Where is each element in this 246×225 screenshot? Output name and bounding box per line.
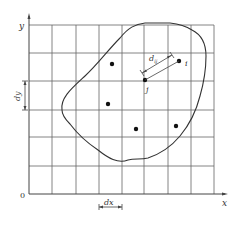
y-axis-arrow-icon [28,13,31,19]
grid [29,25,214,194]
point-i-label: i [185,59,188,68]
y-axis-label: y [18,21,25,31]
dy-dimension [22,81,28,110]
dx-label: dx [104,198,114,207]
data-points [106,59,181,131]
x-axis-arrow-icon [222,193,228,196]
x-axis-label: x [222,198,227,208]
data-point [134,127,138,131]
ij-connecting-line [145,61,179,80]
dy-label: dy [13,91,22,101]
origin-label: 0 [20,191,25,200]
region-boundary-curve [62,23,206,161]
spatial-grid-diagram: y x 0 i j dij dy dx [0,0,246,225]
point-j-label: j [144,85,149,94]
data-point [106,102,110,106]
data-point [110,62,114,66]
dij-label: dij [149,54,158,65]
dij-dimension [140,52,174,76]
data-point [174,124,178,128]
